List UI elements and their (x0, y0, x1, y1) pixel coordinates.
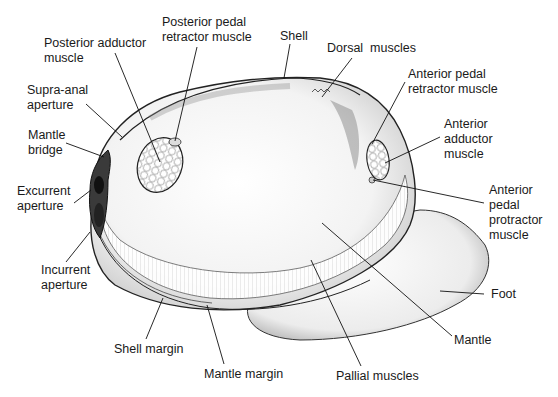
label-mantle-margin: Mantle margin (204, 367, 283, 382)
label-shell: Shell (280, 29, 308, 44)
label-foot: Foot (491, 287, 516, 302)
label-mantle-bridge: Mantle bridge (28, 128, 66, 158)
label-excurrent-aperture: Excurrent aperture (17, 184, 71, 214)
label-shell-margin: Shell margin (114, 342, 183, 357)
label-dorsal-muscles: Dorsal muscles (327, 41, 416, 56)
clam-anatomy-diagram: Posterior adductor muscle Posterior peda… (0, 0, 558, 397)
label-incurrent-aperture: Incurrent aperture (41, 263, 90, 293)
label-posterior-adductor-muscle: Posterior adductor muscle (44, 36, 146, 66)
label-pallial-muscles: Pallial muscles (336, 369, 419, 384)
label-anterior-adductor-muscle: Anterior adductor muscle (444, 117, 493, 162)
label-supra-anal-aperture: Supra-anal aperture (27, 83, 88, 113)
label-posterior-pedal-retractor-muscle: Posterior pedal retractor muscle (162, 15, 252, 45)
label-anterior-pedal-protractor-muscle: Anterior pedal protractor muscle (489, 183, 543, 243)
label-mantle: Mantle (454, 333, 492, 348)
label-anterior-pedal-retractor-muscle: Anterior pedal retractor muscle (408, 67, 498, 97)
